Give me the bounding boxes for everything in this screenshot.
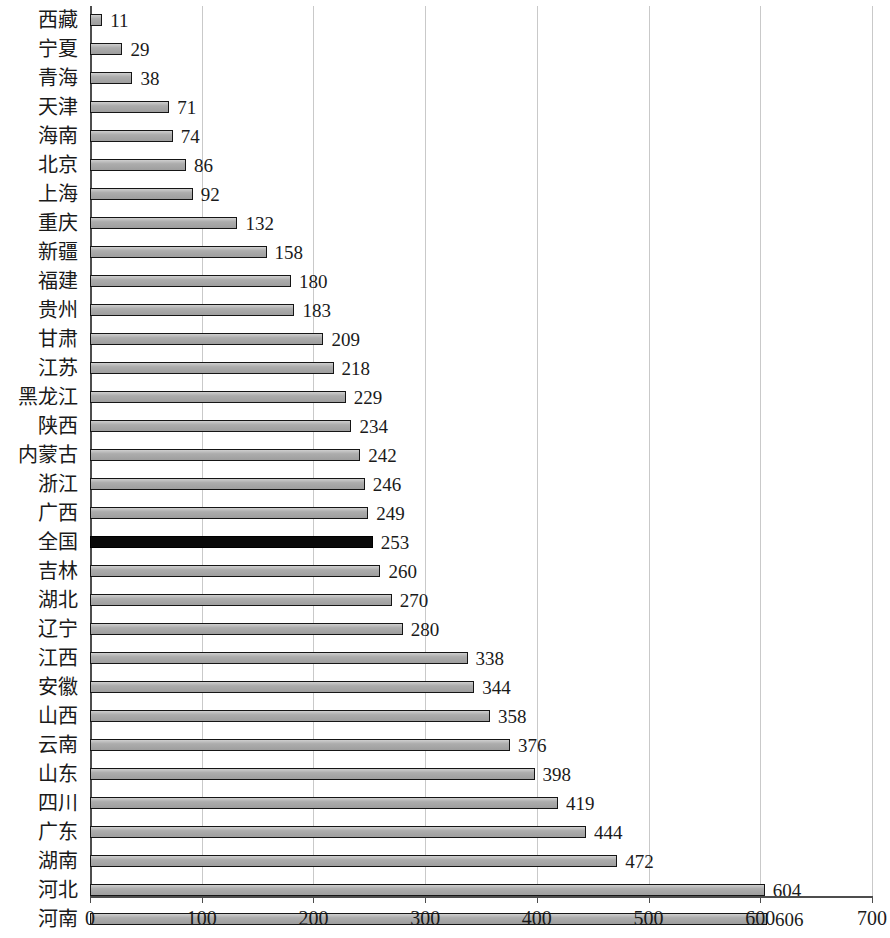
bar-row: 湖北270 xyxy=(90,586,872,615)
bar-value-label: 74 xyxy=(181,128,200,145)
bar-value-label: 606 xyxy=(775,911,804,928)
bar-value-label: 92 xyxy=(201,186,220,203)
tick-400 xyxy=(537,896,538,903)
bar-value-label: 218 xyxy=(342,360,371,377)
bar xyxy=(90,217,237,229)
bar xyxy=(90,710,490,722)
category-label: 福建 xyxy=(0,267,78,296)
x-tick-label: 600 xyxy=(745,906,775,930)
bar xyxy=(90,188,193,200)
category-label: 天津 xyxy=(0,93,78,122)
bar-row: 海南74 xyxy=(90,122,872,151)
bar-row: 宁夏29 xyxy=(90,35,872,64)
bar-row: 安徽344 xyxy=(90,673,872,702)
bar-row: 新疆158 xyxy=(90,238,872,267)
bar xyxy=(90,130,173,142)
tick-200 xyxy=(313,896,314,903)
bar-value-label: 180 xyxy=(299,273,328,290)
bar-value-label: 270 xyxy=(400,592,429,609)
bar-row: 湖南472 xyxy=(90,847,872,876)
bar-row: 青海38 xyxy=(90,64,872,93)
bar-row: 浙江246 xyxy=(90,470,872,499)
category-label: 江苏 xyxy=(0,354,78,383)
bar xyxy=(90,246,267,258)
bar-value-label: 338 xyxy=(476,650,505,667)
tick-700 xyxy=(872,896,873,903)
bar xyxy=(90,43,122,55)
bar-row: 黑龙江229 xyxy=(90,383,872,412)
bar-value-label: 86 xyxy=(194,157,213,174)
bar-value-label: 38 xyxy=(140,70,159,87)
category-label: 广东 xyxy=(0,818,78,847)
bar xyxy=(90,768,535,780)
bar-value-label: 209 xyxy=(331,331,360,348)
bar-value-label: 242 xyxy=(368,447,397,464)
bar-row: 江西338 xyxy=(90,644,872,673)
x-tick-label: 0 xyxy=(85,906,95,930)
category-label: 云南 xyxy=(0,731,78,760)
bar-highlighted xyxy=(90,536,373,548)
category-label: 湖南 xyxy=(0,847,78,876)
bar-row: 山东398 xyxy=(90,760,872,789)
category-label: 海南 xyxy=(0,122,78,151)
bar-value-label: 71 xyxy=(177,99,196,116)
tick-500 xyxy=(649,896,650,903)
bar-row: 全国253 xyxy=(90,528,872,557)
category-label: 青海 xyxy=(0,64,78,93)
bar xyxy=(90,826,586,838)
bar-row: 天津71 xyxy=(90,93,872,122)
bar xyxy=(90,507,368,519)
bar-row: 河北604 xyxy=(90,876,872,905)
bar-row: 上海92 xyxy=(90,180,872,209)
category-label: 广西 xyxy=(0,499,78,528)
bar-value-label: 11 xyxy=(110,12,128,29)
category-label: 湖北 xyxy=(0,586,78,615)
bar xyxy=(90,333,323,345)
bar-row: 西藏11 xyxy=(90,6,872,35)
bar-value-label: 344 xyxy=(482,679,511,696)
bar xyxy=(90,594,392,606)
bar-row: 重庆132 xyxy=(90,209,872,238)
bar-row: 云南376 xyxy=(90,731,872,760)
bar-value-label: 398 xyxy=(543,766,572,783)
bar-value-label: 234 xyxy=(359,418,388,435)
x-tick-label: 500 xyxy=(634,906,664,930)
tick-600 xyxy=(760,896,761,903)
bar-row: 北京86 xyxy=(90,151,872,180)
x-tick-label: 300 xyxy=(410,906,440,930)
bar xyxy=(90,275,291,287)
category-label: 安徽 xyxy=(0,673,78,702)
bar xyxy=(90,304,294,316)
bar xyxy=(90,478,365,490)
bar xyxy=(90,681,474,693)
category-label: 甘肃 xyxy=(0,325,78,354)
bar-chart: 西藏11宁夏29青海38天津71海南74北京86上海92重庆132新疆158福建… xyxy=(0,0,890,938)
category-label: 陕西 xyxy=(0,412,78,441)
bar xyxy=(90,14,102,26)
category-label: 山西 xyxy=(0,702,78,731)
bar-value-label: 158 xyxy=(275,244,304,261)
tick-0 xyxy=(90,896,91,903)
category-label: 内蒙古 xyxy=(0,441,78,470)
category-label: 四川 xyxy=(0,789,78,818)
category-label: 河北 xyxy=(0,876,78,905)
category-label: 浙江 xyxy=(0,470,78,499)
bar-value-label: 260 xyxy=(388,563,417,580)
bar xyxy=(90,623,403,635)
bar-row: 广西249 xyxy=(90,499,872,528)
bar xyxy=(90,884,765,896)
bar-row: 江苏218 xyxy=(90,354,872,383)
bar-value-label: 444 xyxy=(594,824,623,841)
bar-row: 四川419 xyxy=(90,789,872,818)
bar-value-label: 253 xyxy=(381,534,410,551)
bar-row: 广东444 xyxy=(90,818,872,847)
bar-row: 山西358 xyxy=(90,702,872,731)
bar-value-label: 246 xyxy=(373,476,402,493)
bar-value-label: 472 xyxy=(625,853,654,870)
bar xyxy=(90,391,346,403)
category-label: 贵州 xyxy=(0,296,78,325)
bar xyxy=(90,72,132,84)
category-label: 西藏 xyxy=(0,6,78,35)
bar xyxy=(90,652,468,664)
tick-100 xyxy=(202,896,203,903)
